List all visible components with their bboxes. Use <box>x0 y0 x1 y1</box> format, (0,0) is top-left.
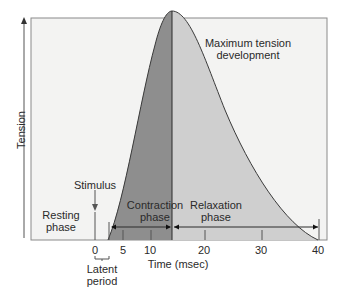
y-axis-arrowhead-icon <box>21 17 27 24</box>
max-tension-line2: development <box>188 49 308 61</box>
tick-label-10: 10 <box>144 244 156 256</box>
y-axis-label: Tension <box>15 105 27 155</box>
tick-label-30: 30 <box>255 244 267 256</box>
tick-label-0: 0 <box>92 244 98 256</box>
contraction-line2: phase <box>120 211 190 223</box>
max-tension-line1: Maximum tension <box>188 37 308 49</box>
contraction-phase-label: Contraction phase <box>120 199 190 223</box>
stimulus-label: Stimulus <box>70 179 120 191</box>
max-tension-label: Maximum tension development <box>188 37 308 61</box>
tick-label-20: 20 <box>198 244 210 256</box>
tick-label-5: 5 <box>120 244 126 256</box>
latent-line2: period <box>80 275 124 287</box>
relaxation-line1: Relaxation <box>185 199 247 211</box>
latent-period-label: Latent period <box>80 263 124 287</box>
resting-line1: Resting <box>37 209 85 221</box>
relaxation-line2: phase <box>185 211 247 223</box>
resting-phase-label: Resting phase <box>37 209 85 233</box>
x-axis-label: Time (msec) <box>143 258 213 270</box>
resting-line2: phase <box>37 221 85 233</box>
contraction-line1: Contraction <box>120 199 190 211</box>
tick-label-40: 40 <box>312 244 324 256</box>
latent-line1: Latent <box>80 263 124 275</box>
relaxation-phase-label: Relaxation phase <box>185 199 247 223</box>
latent-period-bracket <box>95 256 109 261</box>
